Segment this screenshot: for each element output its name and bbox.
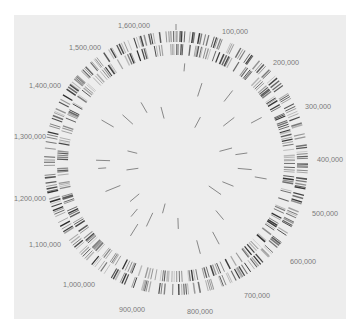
- gene-feature: [278, 227, 287, 233]
- gene-feature: [209, 186, 221, 195]
- gene-feature: [282, 142, 293, 144]
- gene-feature: [46, 184, 57, 186]
- gene-feature: [297, 154, 308, 155]
- gene-feature: [216, 210, 224, 219]
- gene-feature: [47, 137, 58, 139]
- gene-feature: [189, 270, 190, 281]
- gene-feature: [161, 107, 164, 119]
- gene-feature: [47, 187, 58, 189]
- gene-feature: [70, 212, 80, 217]
- gene-feature: [238, 168, 252, 169]
- gene-feature: [295, 137, 306, 139]
- gene-feature: [182, 284, 183, 295]
- gene-feature: [146, 213, 152, 227]
- gene-feature: [239, 51, 245, 60]
- gene-feature: [288, 114, 298, 118]
- gene-feature: [286, 213, 296, 218]
- position-label: 900,000: [119, 305, 145, 314]
- gene-feature: [251, 78, 259, 86]
- gene-feature: [159, 45, 161, 56]
- gene-feature: [161, 283, 162, 294]
- gene-feature: [296, 147, 307, 148]
- gene-feature: [46, 142, 57, 144]
- gene-feature: [122, 115, 132, 124]
- gene-feature: [233, 62, 239, 71]
- gene-feature: [253, 239, 261, 247]
- gene-feature: [75, 221, 84, 227]
- gene-feature: [45, 174, 56, 175]
- gene-feature: [161, 45, 162, 56]
- gene-feature: [46, 182, 57, 184]
- gene-feature: [131, 209, 137, 217]
- gene-feature: [156, 46, 158, 57]
- gene-feature: [45, 148, 56, 149]
- gene-feature: [191, 270, 193, 281]
- position-label: 1,400,000: [29, 81, 61, 90]
- gene-feature: [283, 149, 294, 150]
- gene-feature: [71, 236, 80, 243]
- gene-feature: [126, 168, 138, 170]
- gene-feature: [171, 44, 172, 55]
- gene-feature: [282, 139, 293, 141]
- gene-feature: [284, 170, 295, 171]
- gene-feature: [283, 178, 294, 180]
- gene-feature: [296, 145, 307, 147]
- gene-feature: [188, 283, 189, 294]
- forward-strand-gene-track: [44, 31, 308, 295]
- gene-feature: [60, 138, 71, 140]
- gene-feature: [283, 144, 294, 146]
- gene-feature: [184, 63, 185, 71]
- gene-feature: [57, 155, 68, 156]
- gene-feature: [104, 53, 110, 62]
- gene-feature: [251, 117, 262, 123]
- gene-feature: [167, 271, 168, 282]
- position-label: 1,200,000: [14, 194, 46, 203]
- gene-feature: [162, 270, 163, 281]
- gene-feature: [225, 259, 230, 269]
- gene-feature: [257, 65, 264, 73]
- gene-feature: [198, 83, 202, 96]
- gene-feature: [284, 171, 295, 172]
- gene-feature: [203, 34, 205, 45]
- gene-feature: [189, 45, 190, 56]
- gene-feature: [196, 269, 198, 280]
- gene-feature: [283, 176, 294, 177]
- gene-feature: [248, 260, 255, 269]
- gene-feature: [47, 134, 58, 136]
- gene-feature: [144, 35, 147, 46]
- gene-feature: [197, 240, 201, 254]
- gene-feature: [236, 253, 242, 262]
- gene-feature: [137, 51, 141, 61]
- gene-feature: [293, 196, 304, 199]
- gene-feature: [145, 267, 148, 278]
- gene-feature: [58, 218, 68, 223]
- gene-feature: [48, 132, 59, 135]
- gene-feature: [168, 271, 169, 282]
- gene-feature: [128, 40, 132, 50]
- gene-feature: [235, 48, 240, 58]
- gene-feature: [141, 102, 147, 112]
- gene-feature: [57, 170, 68, 171]
- gene-feature: [297, 170, 308, 171]
- gene-feature: [293, 193, 304, 196]
- gene-feature: [245, 72, 252, 80]
- gene-feature: [159, 32, 160, 43]
- gene-feature: [274, 86, 283, 92]
- gene-feature: [138, 265, 141, 275]
- gene-feature: [149, 34, 151, 45]
- gene-feature: [93, 78, 101, 86]
- circular-genome-map: 100,000 200,000 300,000 400,000 500,000 …: [0, 0, 350, 329]
- gene-feature: [211, 279, 214, 290]
- gene-feature: [117, 59, 122, 69]
- gene-feature: [213, 232, 220, 244]
- gene-feature: [127, 151, 137, 153]
- position-label: 400,000: [317, 155, 343, 164]
- gene-feature: [224, 91, 233, 102]
- gene-feature: [216, 52, 220, 62]
- gene-feature: [189, 32, 190, 43]
- gene-feature: [249, 243, 256, 251]
- position-label: 500,000: [312, 209, 338, 218]
- gene-feature: [164, 284, 165, 295]
- gene-feature: [47, 190, 58, 192]
- gene-feature: [44, 157, 55, 158]
